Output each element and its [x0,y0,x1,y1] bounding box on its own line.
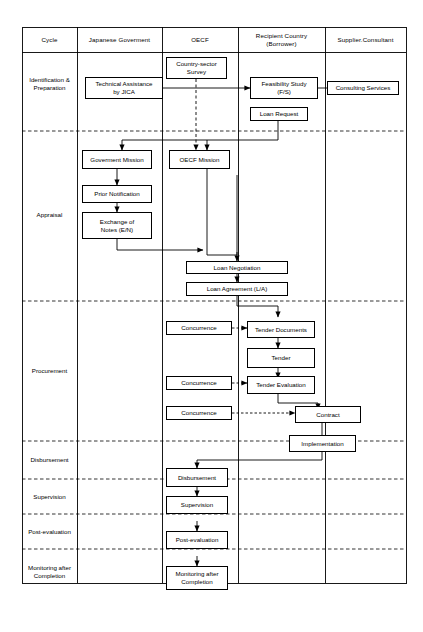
node-post-evaluation[interactable]: Post-evaluation [166,531,228,549]
node-concurrence-2[interactable]: Concurrence [166,376,232,390]
node-technical-assistance-by-jica[interactable]: Technical Assistance by JICA [85,77,163,99]
node-consulting-services[interactable]: Consulting Services [327,81,399,95]
node-tender[interactable]: Tender [247,348,315,368]
node-prior-notification[interactable]: Prior Notification [82,185,152,203]
phase-label-supervision: Supervision [22,491,77,503]
edge-implementation-to-disbursement [197,452,322,468]
column-header-recipient-country: Recipient Country (Borrower) [238,28,325,52]
node-exchange-of-notes-line1: Exchange of [100,218,134,226]
node-feasibility-study-line1: Feasibility Study [261,80,306,88]
node-monitoring-line1: Monitoring after [176,570,219,578]
node-technical-assistance-line1: Technical Assistance [95,80,152,88]
phase-label-identification: Identification & Preparation [22,72,77,96]
phase-label-disbursement: Disbursement [22,454,77,466]
node-oecf-mission[interactable]: OECF Mission [169,150,230,169]
node-feasibility-study[interactable]: Feasibility Study (F/S) [250,77,318,99]
node-tender-documents[interactable]: Tender Documents [247,321,315,338]
node-exchange-of-notes-line2: Notes (E/N) [101,226,133,234]
node-loan-negotiation[interactable]: Loan Negotiation [186,261,288,274]
node-supervision[interactable]: Supervision [166,496,228,514]
phase-label-post-evaluation: Post-evaluation [22,526,77,538]
node-implementation[interactable]: Implementation [289,435,356,452]
node-loan-request[interactable]: Loan Request [250,107,308,121]
phase-label-appraisal: Appraisal [22,209,77,221]
node-feasibility-study-line2: (F/S) [277,88,291,96]
edge-en-to-riser [117,239,203,250]
phase-label-monitoring-line2: Completion [34,572,65,580]
phase-label-procurement: Procurement [22,365,77,377]
phase-label-identification-line2: Preparation [34,84,66,92]
phase-label-monitoring-after-completion: Monitoring after Completion [22,560,77,584]
column-header-recipient-line1: Recipient Country [256,32,307,40]
node-monitoring-after-completion[interactable]: Monitoring after Completion [166,566,228,590]
edge-agreement-to-tenderdocs [237,296,278,317]
column-header-cycle: Cycle [22,28,77,52]
node-monitoring-line2: Completion [181,578,212,586]
node-country-sector-survey-line2: Survey [187,68,206,76]
column-header-recipient-line2: (Borrower) [266,40,296,48]
column-header-oecf: OECF [162,28,238,52]
column-header-japanese-government: Japanese Goverment [77,28,162,52]
node-government-mission[interactable]: Goverment Mission [82,150,152,169]
node-exchange-of-notes[interactable]: Exchange of Notes (E/N) [82,212,152,239]
node-country-sector-survey[interactable]: Country-sector Survey [166,57,227,79]
node-tender-evaluation[interactable]: Tender Evaluation [247,376,315,394]
node-technical-assistance-line2: by JICA [113,88,135,96]
column-header-supplier-consultant: Supplier.Consultant [325,28,406,52]
edge-loanreq-to-gov-mission [122,121,278,150]
node-concurrence-3[interactable]: Concurrence [166,406,232,420]
phase-label-monitoring-line1: Monitoring after [28,564,71,572]
node-contract[interactable]: Contract [295,406,361,423]
node-disbursement[interactable]: Disbursement [166,468,228,487]
edge-riser-join [207,252,237,255]
phase-label-identification-line1: Identification & [29,76,70,84]
node-country-sector-survey-line1: Country-sector [176,60,217,68]
node-loan-agreement[interactable]: Loan Agreement (L/A) [186,282,288,296]
node-concurrence-1[interactable]: Concurrence [166,321,232,335]
